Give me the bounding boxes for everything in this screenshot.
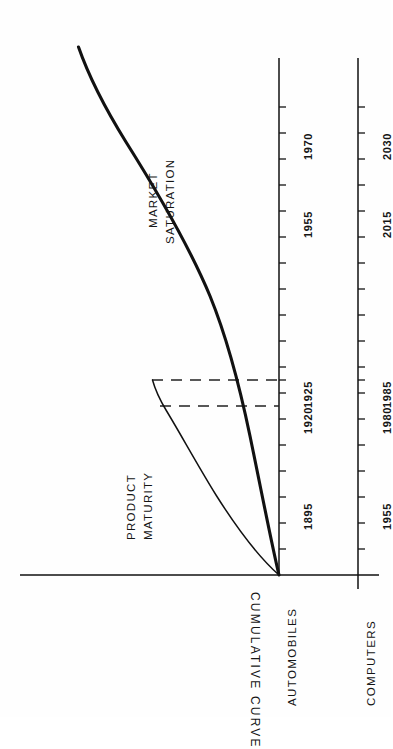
tick-label-automobiles-1920: 1920 [302, 407, 314, 434]
tick-label-automobiles-1970: 1970 [302, 133, 314, 160]
tick-label-computers-2015: 2015 [381, 211, 393, 238]
tick-label-computers-1980: 1980 [381, 407, 393, 434]
tick-label-automobiles-1955: 1955 [302, 211, 314, 238]
automobiles-axis [279, 58, 286, 575]
tick-label-automobiles-1895: 1895 [302, 503, 314, 530]
tick-label-computers-2030: 2030 [381, 133, 393, 160]
annotation-market-saturation-line1: MARKET [146, 172, 160, 228]
value-axis-label: CUMULATIVE CURVE [248, 592, 262, 749]
annotation-product-maturity-line2: MATURITY [141, 472, 155, 540]
axis-name-computers: COMPUTERS [365, 620, 377, 706]
tick-label-computers-1985: 1985 [381, 381, 393, 408]
annotation-product-maturity-line1: PRODUCT [124, 474, 138, 540]
cumulative-curve [79, 47, 280, 575]
annotation-market-saturation-line2: SATURATION [163, 159, 177, 244]
tick-label-automobiles-1925: 1925 [302, 381, 314, 408]
axis-name-automobiles: AUTOMOBILES [286, 608, 298, 706]
tick-label-computers-1955: 1955 [381, 503, 393, 530]
computers-axis [358, 58, 365, 589]
